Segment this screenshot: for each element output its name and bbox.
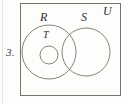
set-circle-T <box>40 46 58 64</box>
set-label-U: U <box>103 5 112 17</box>
set-circle-R <box>22 25 76 79</box>
set-label-R: R <box>40 11 47 23</box>
set-circle-S <box>62 28 110 76</box>
venn-diagram-figure: 3. R S U T <box>0 0 122 104</box>
set-label-S: S <box>81 11 87 23</box>
set-label-T: T <box>43 30 49 40</box>
